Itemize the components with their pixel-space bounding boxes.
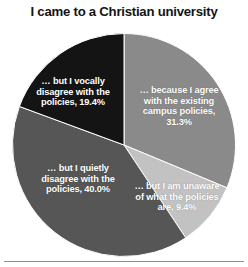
pie-svg [0,0,248,267]
pie-plot-area: … because I agree with the existing camp… [0,0,248,267]
slice-label-quietly-disagree: … but I quietly disagree with the polici… [28,163,128,195]
pie-chart-figure: I came to a Christian university … becau… [0,0,248,267]
footer-divider [4,261,244,262]
slice-label-unaware: … but I am unaware of what the policies … [131,181,223,213]
slice-label-agree: … because I agree with the existing camp… [131,85,227,127]
slice-label-vocally-disagree: … but I vocally disagree with the polici… [24,76,122,108]
pie-slices-group [12,34,235,257]
